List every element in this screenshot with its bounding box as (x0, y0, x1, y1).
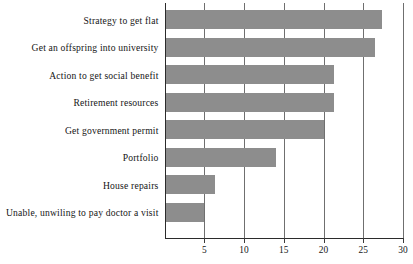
plot-area (165, 8, 404, 238)
gridline-30 (403, 3, 404, 238)
x-tick-label: 15 (279, 245, 288, 256)
bar (165, 120, 324, 139)
category-label: Get government permit (65, 124, 159, 135)
category-label: Strategy to get flat (84, 14, 159, 25)
category-label: Get an offspring into university (32, 42, 159, 53)
bar-chart: Strategy to get flatGet an offspring int… (0, 0, 413, 264)
category-label: Portfolio (123, 152, 159, 163)
x-tick-label: 25 (359, 245, 368, 256)
bar (165, 148, 276, 167)
category-label: Retirement resources (73, 97, 158, 108)
bar (165, 93, 334, 112)
x-tick-mark (403, 238, 404, 243)
x-tick-mark (204, 238, 205, 243)
bar (165, 175, 215, 194)
y-axis-line (165, 3, 166, 239)
bar (165, 203, 205, 222)
x-tick-mark (244, 238, 245, 243)
category-label: House repairs (103, 179, 159, 190)
category-label: Action to get social benefit (49, 69, 158, 80)
x-tick-mark (284, 238, 285, 243)
x-tick-label: 20 (319, 245, 328, 256)
bar (165, 65, 334, 84)
x-tick-label: 30 (398, 245, 407, 256)
x-tick-label: 10 (239, 245, 248, 256)
bar (165, 10, 383, 29)
x-tick-mark (324, 238, 325, 243)
x-tick-label: 5 (202, 245, 207, 256)
x-tick-mark (363, 238, 364, 243)
category-label: Unable, unwiling to pay doctor a visit (6, 207, 159, 218)
bar (165, 38, 376, 57)
